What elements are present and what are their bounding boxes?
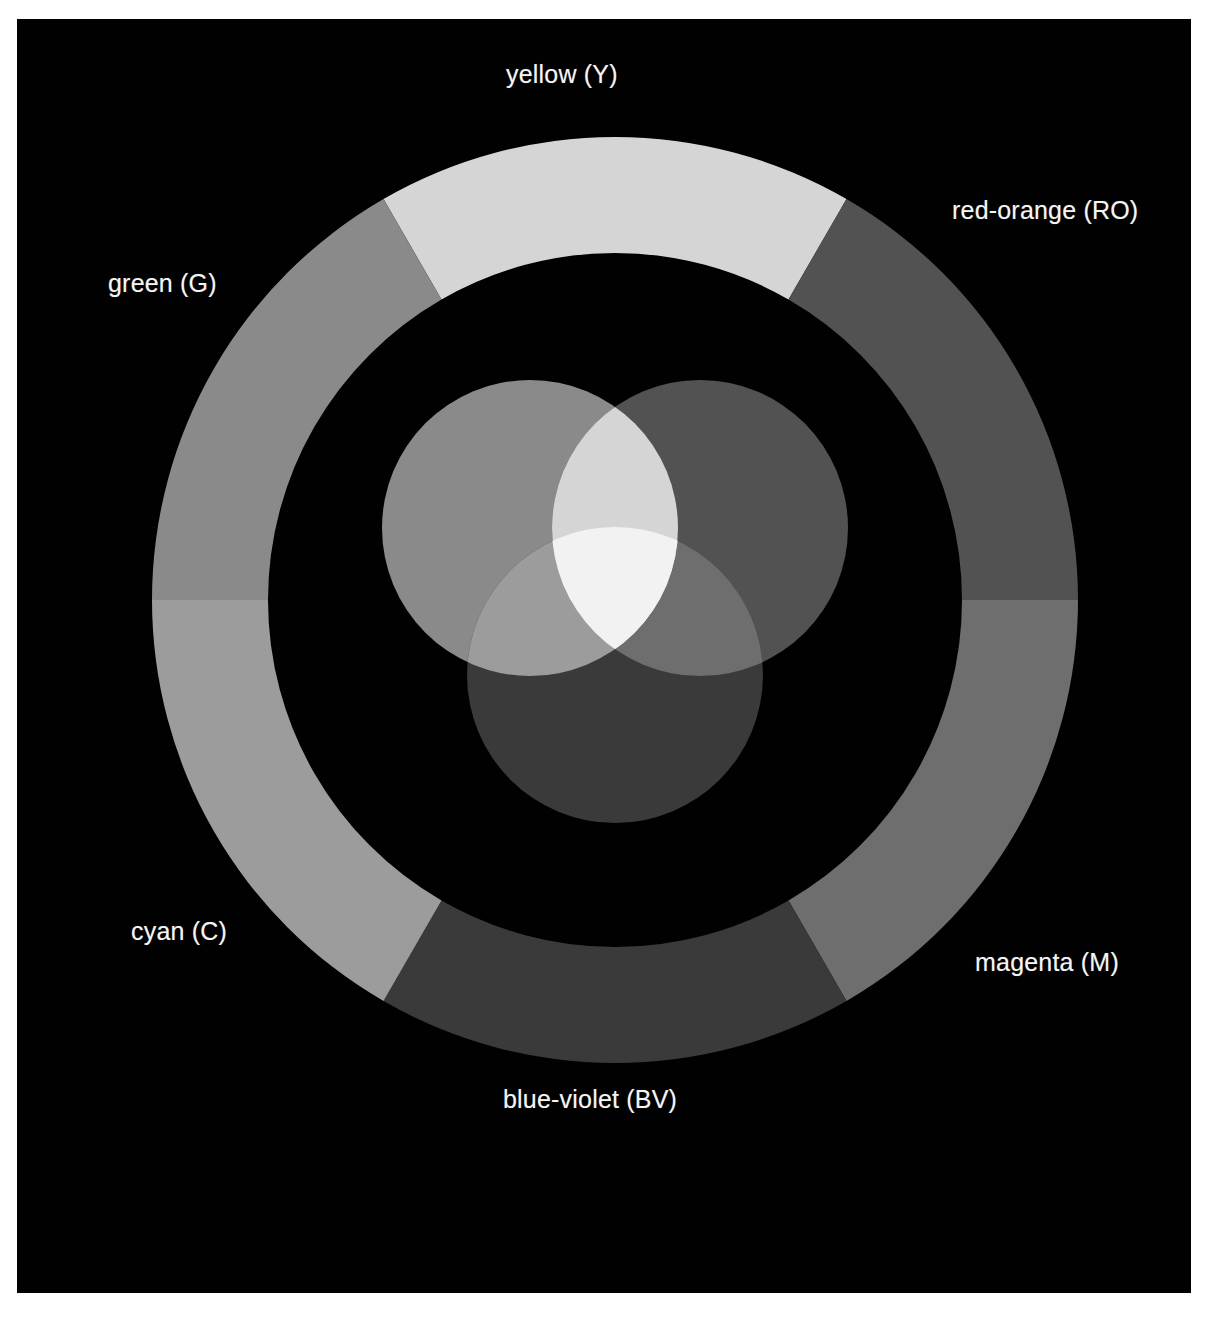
ring-segment-magenta[interactable] — [789, 600, 1079, 1001]
ring-label-cyan: cyan (C) — [131, 919, 227, 944]
figure-panel: yellow (Y) red-orange (RO) green (G) cya… — [17, 19, 1191, 1293]
ring-label-green: green (G) — [108, 271, 217, 296]
ring-segment-blue-violet[interactable] — [384, 901, 847, 1064]
figure-canvas: yellow (Y) red-orange (RO) green (G) cya… — [0, 0, 1210, 1320]
rgb-venn-diagram — [382, 380, 848, 823]
ring-segment-yellow[interactable] — [384, 137, 847, 300]
ring-label-blue-violet: blue-violet (BV) — [503, 1087, 677, 1112]
ring-label-red-orange: red-orange (RO) — [952, 198, 1138, 223]
diagram-stage: yellow (Y) red-orange (RO) green (G) cya… — [17, 19, 1191, 1293]
ring-label-magenta: magenta (M) — [975, 950, 1119, 975]
ring-label-yellow: yellow (Y) — [506, 62, 618, 87]
